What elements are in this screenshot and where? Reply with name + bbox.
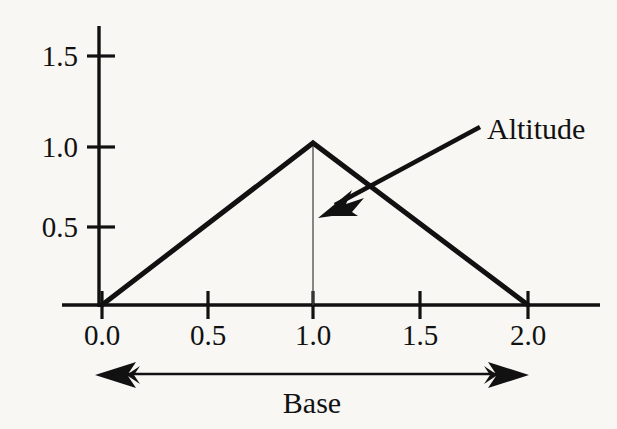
figure-canvas: 1.5 1.0 0.5 0.0 0.5 1.0 1.5 2.0 Altitude…: [0, 0, 617, 429]
x-tick-label-0.0: 0.0: [84, 319, 120, 351]
y-tick-label-1.5: 1.5: [42, 40, 78, 72]
altitude-leader-line: [335, 127, 480, 205]
x-tick-label-1.0: 1.0: [295, 319, 331, 351]
triangle-figure: 1.5 1.0 0.5 0.0 0.5 1.0 1.5 2.0 Altitude…: [0, 0, 617, 429]
y-tick-label-1.0: 1.0: [42, 131, 78, 163]
x-tick-label-0.5: 0.5: [190, 319, 226, 351]
altitude-label: Altitude: [487, 112, 585, 145]
triangle-outline: [102, 143, 528, 305]
x-tick-label-1.5: 1.5: [402, 319, 438, 351]
base-label: Base: [283, 386, 341, 419]
y-tick-label-0.5: 0.5: [42, 211, 78, 243]
base-arrowhead-right-icon: [484, 362, 529, 388]
x-tick-label-2.0: 2.0: [510, 319, 546, 351]
base-arrowhead-left-icon: [95, 362, 140, 388]
